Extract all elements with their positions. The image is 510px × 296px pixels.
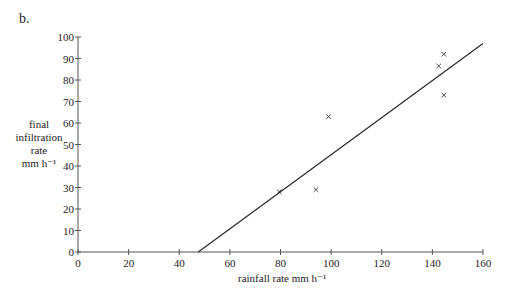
x-tick-label: 40 — [174, 257, 186, 269]
y-tick-label: 60 — [63, 117, 75, 129]
x-tick-label: 160 — [475, 257, 492, 269]
y-tick-label: 50 — [63, 139, 75, 151]
y-tick-label: 100 — [58, 31, 75, 43]
plot-area: 0204060801001201401600102030405060708090… — [0, 0, 510, 296]
fit-line — [198, 43, 483, 252]
x-tick-label: 20 — [123, 257, 135, 269]
y-tick-label: 30 — [63, 182, 75, 194]
x-tick-label: 60 — [224, 257, 236, 269]
data-point-x-marker — [326, 114, 331, 119]
y-tick-label: 70 — [63, 96, 75, 108]
y-tick-label: 80 — [63, 74, 75, 86]
x-tick-label: 100 — [323, 257, 340, 269]
y-tick-label: 90 — [63, 53, 75, 65]
x-tick-label: 80 — [275, 257, 287, 269]
x-tick-label: 120 — [374, 257, 391, 269]
y-tick-label: 40 — [63, 160, 75, 172]
x-tick-label: 0 — [75, 257, 81, 269]
y-tick-label: 20 — [63, 203, 75, 215]
data-point-x-marker — [436, 64, 441, 69]
x-tick-label: 140 — [424, 257, 441, 269]
y-tick-label: 0 — [69, 246, 75, 258]
data-point-x-marker — [314, 187, 319, 192]
data-point-x-marker — [441, 52, 446, 57]
y-tick-label: 10 — [63, 225, 75, 237]
data-point-x-marker — [441, 93, 446, 98]
